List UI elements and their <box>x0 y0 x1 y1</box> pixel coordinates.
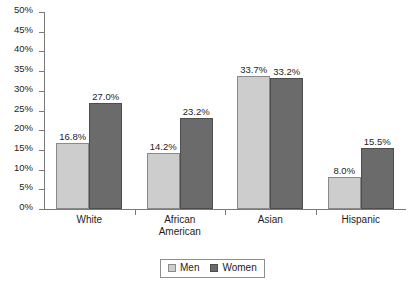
y-axis-tick-label: 25% <box>0 104 33 114</box>
y-axis-tick-mark <box>39 51 44 52</box>
legend-label-men: Men <box>180 262 199 274</box>
bar-value-label: 16.8% <box>59 131 86 142</box>
y-axis-tick-mark <box>39 91 44 92</box>
bar-chart: 50%45%40%35%30%25%20%15%10%5%0% 16.8%27.… <box>0 0 417 282</box>
y-axis-tick-label: 35% <box>0 64 33 74</box>
legend-item-men: Men <box>168 262 199 274</box>
legend-label-women: Women <box>222 262 256 274</box>
bar-value-label: 27.0% <box>92 91 119 102</box>
bar-women[interactable]: 15.5% <box>361 148 394 209</box>
bar-group: 8.0%15.5% <box>328 12 394 209</box>
x-axis-category-label: Hispanic <box>316 214 407 226</box>
y-axis-tick-label: 0% <box>0 202 33 212</box>
y-axis-tick: 40% <box>44 51 45 52</box>
y-axis-tick-mark <box>39 150 44 151</box>
y-axis-tick: 30% <box>44 91 45 92</box>
y-axis-tick-mark <box>39 12 44 13</box>
bar-value-label: 23.2% <box>183 106 210 117</box>
bar-group-bars: 14.2%23.2% <box>147 12 213 209</box>
y-axis-tick-label: 45% <box>0 25 33 35</box>
y-axis-tick-label: 10% <box>0 163 33 173</box>
y-axis-tick: 10% <box>44 170 45 171</box>
bar-group-bars: 33.7%33.2% <box>237 12 303 209</box>
bar-group-bars: 8.0%15.5% <box>328 12 394 209</box>
bar-group: 14.2%23.2% <box>147 12 213 209</box>
bar-men[interactable]: 16.8% <box>56 143 89 209</box>
bar-value-label: 33.7% <box>240 64 267 75</box>
bar-men[interactable]: 8.0% <box>328 177 361 209</box>
bar-value-label: 33.2% <box>273 66 300 77</box>
y-axis-tick-mark <box>39 189 44 190</box>
y-axis-tick: 45% <box>44 32 45 33</box>
bar-group: 16.8%27.0% <box>56 12 122 209</box>
y-axis-tick: 15% <box>44 150 45 151</box>
y-axis-tick-label: 5% <box>0 182 33 192</box>
y-axis-tick: 0% <box>44 209 45 210</box>
y-axis-tick-mark <box>39 130 44 131</box>
legend-item-women: Women <box>210 262 256 274</box>
bar-value-label: 15.5% <box>364 136 391 147</box>
bar-women[interactable]: 23.2% <box>180 118 213 209</box>
y-axis-tick-mark <box>39 71 44 72</box>
x-axis-category-label: African American <box>135 214 226 238</box>
y-axis-tick: 20% <box>44 130 45 131</box>
y-axis-tick: 35% <box>44 71 45 72</box>
legend-swatch-women-icon <box>210 264 218 272</box>
y-axis-tick-label: 20% <box>0 123 33 133</box>
y-axis-tick-label: 30% <box>0 84 33 94</box>
y-axis-tick-label: 15% <box>0 143 33 153</box>
legend-swatch-men-icon <box>168 264 176 272</box>
y-axis-tick-mark <box>39 111 44 112</box>
y-axis-tick-label: 40% <box>0 44 33 54</box>
bar-value-label: 8.0% <box>333 165 355 176</box>
y-axis-tick: 25% <box>44 111 45 112</box>
bar-women[interactable]: 27.0% <box>89 103 122 209</box>
bar-group: 33.7%33.2% <box>237 12 303 209</box>
bar-women[interactable]: 33.2% <box>270 78 303 209</box>
bar-value-label: 14.2% <box>150 141 177 152</box>
x-axis-category-label: Asian <box>225 214 316 226</box>
bar-group-bars: 16.8%27.0% <box>56 12 122 209</box>
y-axis-tick: 50% <box>44 12 45 13</box>
chart-legend: Men Women <box>160 259 265 278</box>
y-axis-tick-mark <box>39 209 44 210</box>
y-axis-tick: 5% <box>44 189 45 190</box>
y-axis-tick-mark <box>39 32 44 33</box>
y-axis-tick-label: 50% <box>0 5 33 15</box>
bar-men[interactable]: 14.2% <box>147 153 180 209</box>
bar-men[interactable]: 33.7% <box>237 76 270 209</box>
y-axis-tick-mark <box>39 170 44 171</box>
x-axis-category-label: White <box>44 214 135 226</box>
